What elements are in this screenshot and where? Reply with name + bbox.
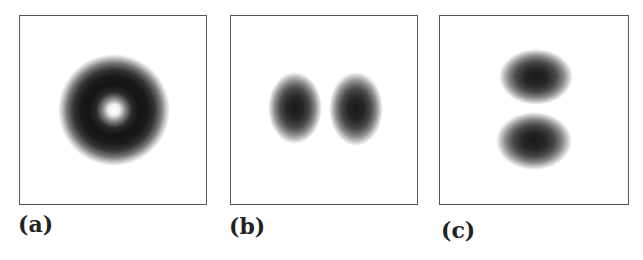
bottom-lobe [496, 112, 572, 170]
left-lobe [268, 72, 322, 144]
panel-a-label: (a) [18, 213, 53, 235]
panel-b [230, 15, 418, 205]
ring-pattern [58, 54, 170, 166]
panel-c [439, 15, 629, 205]
right-lobe [329, 72, 383, 146]
panel-b-label: (b) [229, 215, 265, 237]
top-lobe [499, 49, 573, 105]
panel-a [19, 15, 207, 205]
panel-c-label: (c) [441, 219, 475, 241]
